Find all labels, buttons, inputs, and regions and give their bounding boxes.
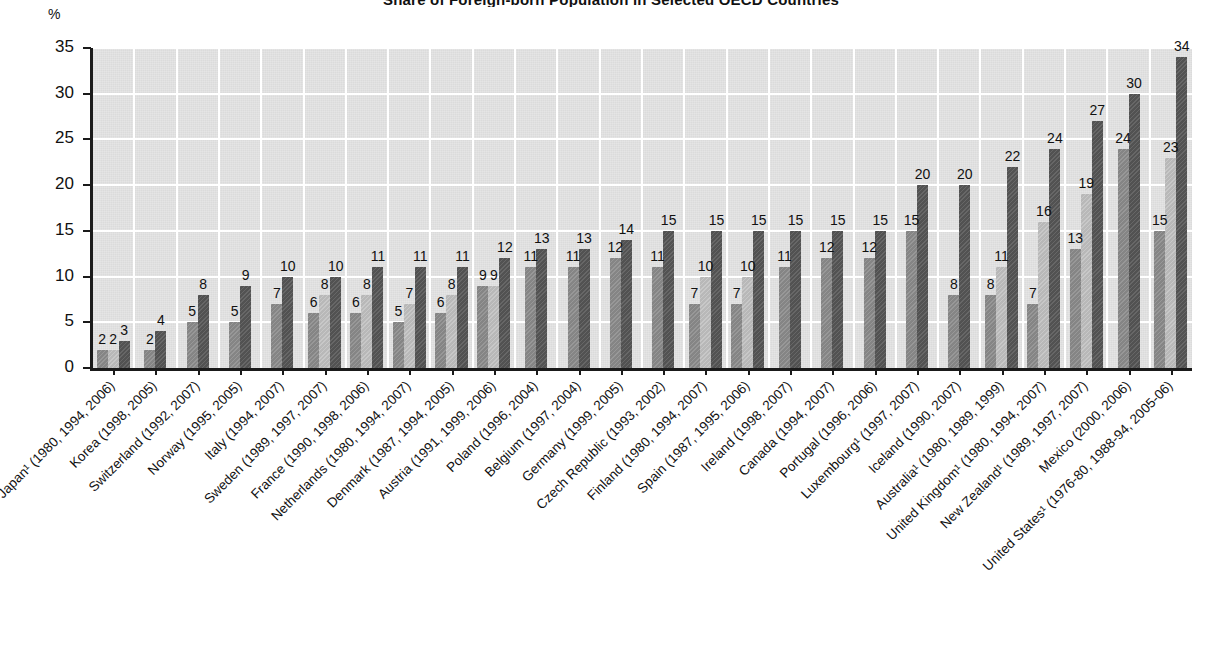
bar[interactable]: 8 [361, 295, 372, 368]
bar-group[interactable]: 1215 [811, 48, 853, 368]
bar[interactable]: 9 [488, 286, 499, 368]
bar-group[interactable]: 1115 [769, 48, 811, 368]
y-tick-mark-5 [83, 321, 91, 323]
bar[interactable]: 15 [906, 231, 917, 368]
bar-group[interactable]: 6811 [430, 48, 472, 368]
bar[interactable]: 14 [621, 240, 632, 368]
bar[interactable]: 12 [610, 258, 621, 368]
bar[interactable]: 11 [457, 267, 468, 368]
bar[interactable]: 7 [404, 304, 415, 368]
bar-group[interactable]: 2430 [1107, 48, 1149, 368]
bar[interactable]: 15 [711, 231, 722, 368]
bar[interactable]: 8 [198, 295, 209, 368]
bar[interactable]: 9 [477, 286, 488, 368]
bar-value-label: 11 [650, 248, 665, 264]
bar[interactable]: 10 [330, 277, 341, 368]
bar-group[interactable]: 1520 [896, 48, 938, 368]
bar-value-label: 10 [698, 258, 714, 274]
bar[interactable]: 10 [700, 277, 711, 368]
bar-group[interactable]: 71624 [1023, 48, 1065, 368]
bar[interactable]: 7 [1027, 304, 1038, 368]
bar[interactable]: 8 [948, 295, 959, 368]
bar-value-label: 5 [231, 303, 239, 319]
bar[interactable]: 13 [1070, 249, 1081, 368]
bar-group[interactable]: 59 [219, 48, 261, 368]
bar[interactable]: 11 [415, 267, 426, 368]
bar[interactable]: 5 [393, 322, 404, 368]
bar-value-label: 11 [777, 248, 792, 264]
bar[interactable]: 11 [525, 267, 536, 368]
bar-group[interactable]: 1115 [642, 48, 684, 368]
bar-group[interactable]: 223 [92, 48, 134, 368]
bar[interactable]: 24 [1049, 149, 1060, 368]
bar[interactable]: 7 [689, 304, 700, 368]
bar[interactable]: 8 [985, 295, 996, 368]
bar[interactable]: 23 [1165, 158, 1176, 368]
bar-group[interactable]: 24 [134, 48, 176, 368]
bar[interactable]: 22 [1007, 167, 1018, 368]
y-tick-label-25: 25 [34, 128, 74, 148]
bar[interactable]: 11 [568, 267, 579, 368]
bar[interactable]: 11 [372, 267, 383, 368]
bar-group[interactable]: 5711 [388, 48, 430, 368]
bar-group[interactable]: 71015 [684, 48, 726, 368]
bar[interactable]: 2 [144, 350, 155, 368]
bar[interactable]: 3 [119, 341, 130, 368]
bar[interactable]: 10 [742, 277, 753, 368]
bar-group[interactable]: 710 [261, 48, 303, 368]
bar[interactable]: 9 [240, 286, 251, 368]
bar[interactable]: 12 [821, 258, 832, 368]
bar[interactable]: 15 [1154, 231, 1165, 368]
bar-group[interactable]: 9912 [473, 48, 515, 368]
bar[interactable]: 8 [319, 295, 330, 368]
bar[interactable]: 2 [97, 350, 108, 368]
bar-group[interactable]: 1215 [854, 48, 896, 368]
bar[interactable]: 20 [959, 185, 970, 368]
bar[interactable]: 10 [282, 277, 293, 368]
bar[interactable]: 6 [308, 313, 319, 368]
bar[interactable]: 12 [864, 258, 875, 368]
bar-group[interactable]: 6810 [304, 48, 346, 368]
bar[interactable]: 13 [536, 249, 547, 368]
bar[interactable]: 11 [652, 267, 663, 368]
bar-group[interactable]: 1214 [600, 48, 642, 368]
bar-value-label: 30 [1126, 75, 1142, 91]
bar[interactable]: 19 [1081, 194, 1092, 368]
category-label[interactable]: Italy (1994, 2007) [202, 378, 287, 463]
bar[interactable]: 11 [779, 267, 790, 368]
bar-group[interactable]: 6811 [346, 48, 388, 368]
bar-group[interactable]: 58 [177, 48, 219, 368]
bar[interactable]: 27 [1092, 121, 1103, 368]
bar-group[interactable]: 71015 [727, 48, 769, 368]
bar[interactable]: 2 [108, 350, 119, 368]
x-tick-mark-20 [959, 368, 961, 375]
bar[interactable]: 16 [1038, 222, 1049, 368]
bar-group[interactable]: 131927 [1065, 48, 1107, 368]
bar[interactable]: 15 [753, 231, 764, 368]
bar-value-label: 10 [280, 258, 296, 274]
bar-group[interactable]: 820 [938, 48, 980, 368]
bar[interactable]: 7 [731, 304, 742, 368]
bar-group[interactable]: 1113 [557, 48, 599, 368]
bar[interactable]: 6 [435, 313, 446, 368]
bar[interactable]: 13 [579, 249, 590, 368]
bar[interactable]: 4 [155, 331, 166, 368]
x-tick-mark-24 [1129, 368, 1131, 375]
bar-value-label: 11 [994, 248, 1009, 264]
bar[interactable]: 5 [187, 322, 198, 368]
bar-value-label: 11 [455, 248, 470, 264]
bar-value-label: 11 [413, 248, 428, 264]
bar[interactable]: 12 [499, 258, 510, 368]
bar-group[interactable]: 1113 [515, 48, 557, 368]
bar[interactable]: 24 [1118, 149, 1129, 368]
bar[interactable]: 5 [229, 322, 240, 368]
bar-group[interactable]: 81122 [980, 48, 1022, 368]
bar[interactable]: 8 [446, 295, 457, 368]
x-axis-line [90, 368, 1192, 371]
bar[interactable]: 6 [350, 313, 361, 368]
bar-group[interactable]: 152334 [1150, 48, 1192, 368]
bar[interactable]: 11 [996, 267, 1007, 368]
bar-value-label: 19 [1078, 175, 1094, 191]
bar[interactable]: 7 [271, 304, 282, 368]
bar[interactable]: 34 [1176, 57, 1187, 368]
